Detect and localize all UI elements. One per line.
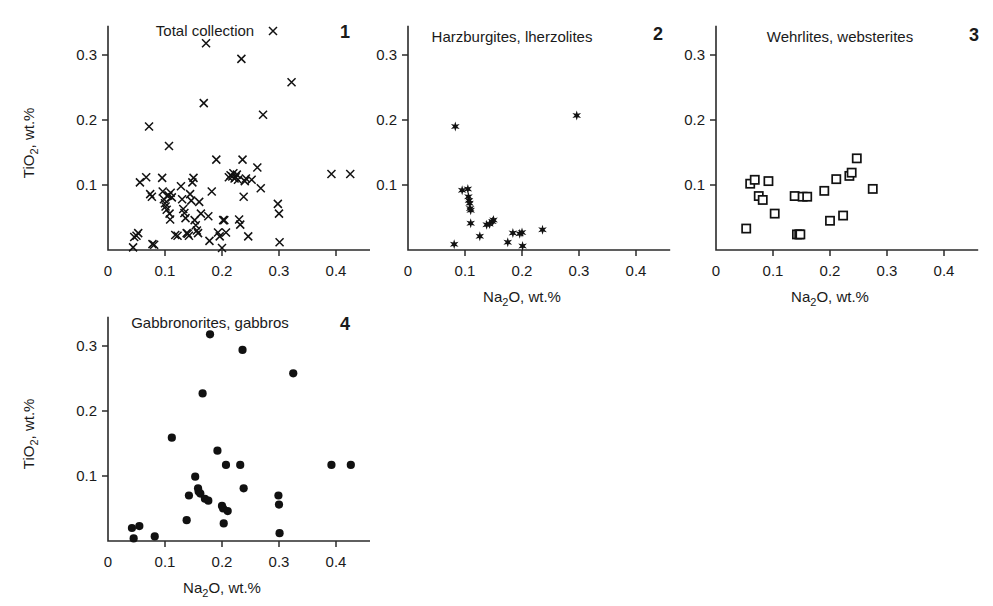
data-point-x [237,55,245,63]
data-point-x [219,216,227,224]
y-tick-label: 0.2 [376,111,397,128]
data-point-x [142,173,150,181]
data-point-x [275,210,283,218]
data-point-dot [274,491,282,499]
data-point-square [869,185,877,193]
data-point-dot [275,529,283,537]
data-point-square [771,210,779,218]
panel-3-wehrlites-websterites: 0.10.20.300.10.20.30.4Wehrlites, webster… [672,0,993,310]
data-point-x [239,156,247,164]
panel-number: 3 [969,25,979,45]
x-tick-label: 0.4 [326,262,347,279]
data-points-group [129,39,354,252]
x-tick-label: 0.2 [212,553,233,570]
y-axis-label-text: TiO2, wt.% [20,399,40,470]
data-point-x [136,178,144,186]
data-points-group [742,154,877,238]
y-tick-label: 0.1 [76,176,97,193]
data-point-dot [151,532,159,540]
data-point-dot [128,524,136,532]
data-point-x [346,170,354,178]
data-points-group [450,110,581,251]
data-point-dot [185,491,193,499]
x-tick-label: 0.4 [934,262,955,279]
data-point-x [158,174,166,182]
data-point-dot [220,519,228,527]
data-point-square [848,169,856,177]
y-axis-label: TiO2, wt.% [20,399,40,470]
data-point-x [148,193,156,201]
data-point-x [134,229,142,237]
y-tick-label: 0.1 [376,176,397,193]
data-point-x [220,216,228,224]
data-point-square [791,192,799,200]
data-point-dot [206,330,214,338]
x-tick-label: 0.1 [155,262,176,279]
data-point-star [509,228,518,238]
data-point-dot [130,534,138,542]
panel-1-plot: 0.10.20.300.10.20.30.4Total collection1T… [0,0,370,300]
x-axis-label: Na2O, wt.% [791,288,869,308]
data-point-square [826,217,834,225]
y-tick-label: 0.3 [376,46,397,63]
panel-title: Total collection [156,22,254,39]
panel-number: 1 [340,22,350,42]
data-point-x [205,237,213,245]
data-point-x [187,197,195,205]
plot-axes [108,26,370,250]
data-point-dot [222,461,230,469]
panel-4-gabbronorites-gabbros: 0.10.20.300.10.20.30.4Gabbronorites, gab… [0,296,370,606]
data-point-dot [199,389,207,397]
data-point-dot [240,484,248,492]
data-point-x [236,221,244,229]
x-tick-label: 0.3 [569,262,590,279]
x-tick-label: 0.2 [512,262,533,279]
data-point-x [244,232,252,240]
data-point-x [274,200,282,208]
data-point-dot [347,461,355,469]
x-tick-label: 0 [712,262,720,279]
data-point-star [450,239,459,249]
data-point-dot [168,434,176,442]
panel-2-harzburgites-lherzolites: 0.10.20.300.10.20.30.4Harzburgites, lher… [360,0,680,310]
data-point-dot [191,473,199,481]
data-point-x [195,198,203,206]
data-point-star [466,218,475,228]
data-point-square [796,230,804,238]
data-point-square [820,187,828,195]
x-tick-label: 0.2 [820,262,841,279]
data-point-x [197,210,205,218]
data-point-x [204,212,212,220]
data-point-square [853,154,861,162]
x-axis-label: Na2O, wt.% [483,288,561,308]
data-point-x [248,176,256,184]
data-point-dot [213,447,221,455]
data-point-x [253,163,261,171]
data-point-x [165,142,173,150]
x-tick-label: 0.2 [212,262,233,279]
data-point-x [212,156,220,164]
data-point-x [259,111,267,119]
panel-3-plot: 0.10.20.300.10.20.30.4Wehrlites, webster… [672,0,993,310]
data-point-star [572,110,581,120]
data-point-square [759,196,767,204]
panel-2-plot: 0.10.20.300.10.20.30.4Harzburgites, lher… [360,0,680,310]
data-point-dot [183,516,191,524]
y-tick-label: 0.3 [76,46,97,63]
panel-4-plot: 0.10.20.300.10.20.30.4Gabbronorites, gab… [0,296,370,606]
data-point-square [742,224,750,232]
data-point-dot [224,507,232,515]
data-point-dot [135,522,143,530]
data-point-dot [275,501,283,509]
data-point-star [475,231,484,241]
data-point-x [166,215,174,223]
x-tick-label: 0.1 [763,262,784,279]
data-point-square [764,177,772,185]
data-points-group [128,330,355,542]
y-axis-label: TiO2, wt.% [20,108,40,179]
data-point-x [182,214,190,222]
x-tick-label: 0.3 [877,262,898,279]
y-tick-label: 0.2 [684,111,705,128]
data-point-x [327,170,335,178]
x-tick-label: 0 [404,262,412,279]
